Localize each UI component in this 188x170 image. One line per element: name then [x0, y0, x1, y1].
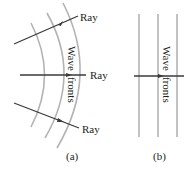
wavefront-diagram: Ray Ray Ray Wave fronts (a) Wave fronts …: [0, 0, 188, 170]
ray-top: [14, 16, 78, 44]
ray-label-top: Ray: [80, 11, 98, 23]
caption-a: (a): [66, 150, 79, 163]
wavefront-label-a-line1: Wave: [66, 46, 78, 71]
ray-label-bottom: Ray: [82, 123, 100, 135]
ray-bottom-arrow-icon: [57, 118, 64, 122]
ray-label-middle: Ray: [90, 69, 108, 81]
panel-a: Ray Ray Ray Wave fronts (a): [14, 3, 108, 163]
ray-bottom: [14, 103, 79, 128]
panel-b: Wave fronts (b): [134, 14, 184, 163]
wavefront-label-b-line1: Wave: [161, 46, 173, 71]
caption-b: (b): [153, 150, 166, 163]
wavefront-label-a-line2: fronts: [66, 77, 78, 103]
wavefront-label-b-line2: fronts: [161, 77, 173, 103]
